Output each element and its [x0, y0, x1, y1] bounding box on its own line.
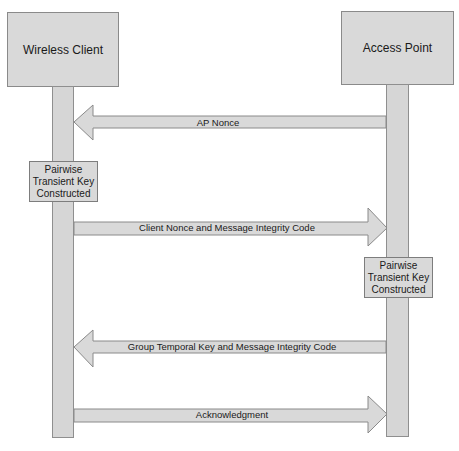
note-line: Pairwise	[33, 164, 94, 176]
note-line: Transient Key	[368, 272, 429, 284]
note-line: Constructed	[33, 188, 94, 200]
note-ap-ptk-constructed: Pairwise Transient Key Constructed	[364, 257, 433, 298]
note-line: Constructed	[368, 284, 429, 296]
note-line: Pairwise	[368, 260, 429, 272]
note-client-ptk-constructed: Pairwise Transient Key Constructed	[29, 161, 98, 202]
message-label-ap-nonce: AP Nonce	[197, 117, 240, 129]
message-label-acknowledgment: Acknowledgment	[196, 409, 268, 421]
message-label-client-nonce-mic: Client Nonce and Message Integrity Code	[139, 222, 315, 234]
message-label-gtk-mic: Group Temporal Key and Message Integrity…	[128, 341, 336, 353]
note-line: Transient Key	[33, 176, 94, 188]
